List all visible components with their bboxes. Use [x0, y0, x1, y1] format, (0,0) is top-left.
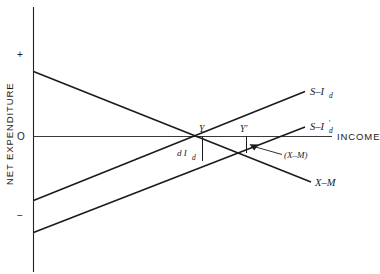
point-label-y: Y: [199, 124, 206, 134]
curve-x-minus-m: [34, 72, 312, 183]
economics-diagram: + O − NET EXPENDITURE INCOME S–I d S–I ′…: [0, 0, 380, 274]
y-axis-title: NET EXPENDITURE: [4, 82, 15, 185]
diagram-canvas: + O − NET EXPENDITURE INCOME S–I d S–I ′…: [0, 0, 380, 274]
curve-label-s-minus-id: S–I: [310, 86, 325, 97]
curve-label-s-minus-id-subscript: d: [329, 91, 333, 100]
tick-label-positive: +: [17, 49, 23, 60]
point-label-y-prime: Y′: [240, 124, 248, 134]
curve-s-minus-id-prime: [34, 127, 306, 233]
tick-label-origin: O: [17, 131, 25, 142]
annotation-d-id: d I: [177, 148, 188, 158]
tick-label-negative: −: [17, 210, 23, 221]
curve-label-s-minus-id-prime-subscript: d: [329, 126, 333, 135]
annotation-x-minus-m: (X–M): [284, 150, 308, 160]
annotation-d-id-subscript: d: [192, 153, 196, 162]
x-axis-title: INCOME: [337, 131, 380, 142]
curve-label-s-minus-id-prime: S–I: [310, 121, 325, 132]
curve-s-minus-id: [34, 92, 306, 201]
curve-label-x-minus-m: X–M: [314, 177, 337, 188]
